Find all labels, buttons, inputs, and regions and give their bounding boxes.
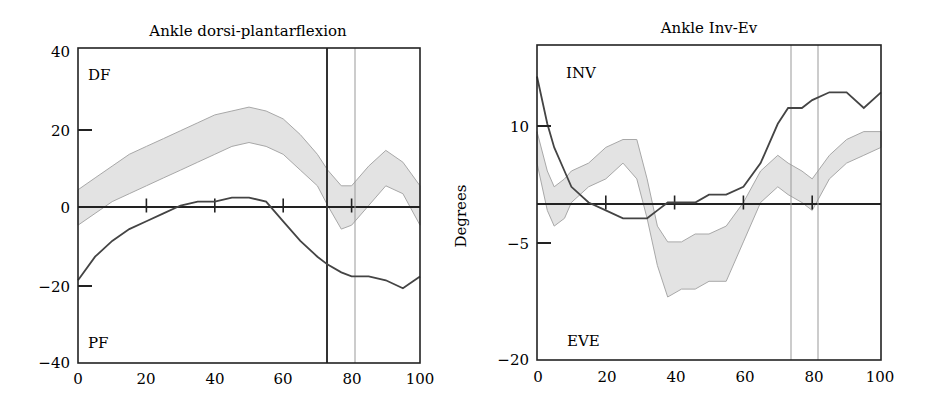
normal-range-band [78,107,420,229]
x-tick-label: 40 [666,368,685,386]
chart-title: Ankle dorsi-plantarflexion [148,22,347,40]
x-tick-label: 60 [735,368,754,386]
x-tick-label: 80 [342,370,361,388]
x-axis-labels: 0 20 40 60 80 100 [533,368,894,386]
normal-range-band [537,132,881,297]
y-tick-label: 40 [51,43,70,61]
y-tick-label: 20 [51,122,70,140]
charts-canvas: Ankle dorsi-plantarflexion 40 20 0 −20 −… [0,0,929,413]
chart-title: Ankle Inv-Ev [660,19,758,37]
y-tick-label: −20 [497,351,529,369]
subject-curve [78,198,420,289]
annotation-df: DF [88,66,110,84]
y-tick-label: 0 [60,199,70,217]
x-tick-label: 40 [205,370,224,388]
annotation-eve: EVE [567,332,600,350]
y-tick-label: −5 [507,235,529,253]
annotation-pf: PF [88,334,109,352]
x-axis-labels: 0 20 40 60 80 100 [73,370,434,388]
y-tick-label: 10 [510,118,529,136]
x-tick-label: 100 [866,368,895,386]
x-tick-label: 0 [533,368,543,386]
x-tick-label: 80 [804,368,823,386]
chart-ankle-inv-ev: Ankle Inv-Ev Degrees 10 −5 −20 0 20 40 6… [452,19,894,386]
y-axis-labels: 40 20 0 −20 −40 [38,43,70,372]
y-tick-label: −40 [38,354,70,372]
annotation-inv: INV [566,64,597,82]
zero-line-ticks [146,199,351,213]
subject-curve [537,77,881,219]
chart-ankle-dorsi-plantarflexion: Ankle dorsi-plantarflexion 40 20 0 −20 −… [38,22,434,388]
y-axis-labels: 10 −5 −20 [497,118,529,369]
x-tick-label: 60 [273,370,292,388]
x-tick-label: 20 [136,370,155,388]
x-tick-label: 0 [73,370,83,388]
x-tick-label: 100 [406,370,435,388]
zero-line-ticks [606,196,812,210]
y-tick-label: −20 [38,278,70,296]
x-tick-label: 20 [597,368,616,386]
y-axis-label: Degrees [452,184,470,247]
